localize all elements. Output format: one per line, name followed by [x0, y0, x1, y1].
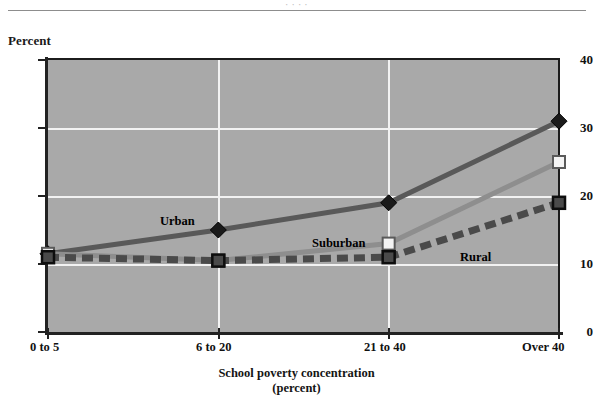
x-axis-title-line2: (percent): [0, 381, 593, 396]
gridline-x-21to40: [388, 60, 390, 332]
x-tick-label-over40: Over 40: [522, 340, 564, 355]
y-tick-label-0: 0: [563, 324, 593, 340]
plot-frame-top: [48, 58, 560, 60]
y-tick-mark-30: [38, 127, 46, 129]
chart-page: · · · · Percent 40 30 20 10 0 0 to 5 6 t…: [0, 0, 593, 404]
x-axis-title: School poverty concentration (percent): [0, 366, 593, 396]
y-tick-mark-20: [38, 195, 46, 197]
x-axis-line: [45, 332, 563, 335]
x-tick-mark-21to40: [388, 328, 390, 339]
y-tick-label-10: 10: [563, 256, 593, 272]
header-rule: [8, 10, 586, 11]
series-label-suburban: Suburban: [312, 236, 366, 251]
cropped-header-text: · · · ·: [0, 0, 593, 9]
y-tick-mark-0: [38, 331, 46, 333]
x-tick-label-6to20: 6 to 20: [196, 340, 231, 355]
gridline-x-6to20: [218, 60, 220, 332]
gridline-y-30: [48, 128, 560, 130]
series-label-rural: Rural: [460, 250, 491, 265]
x-tick-label-21to40: 21 to 40: [364, 340, 406, 355]
y-tick-label-20: 20: [563, 188, 593, 204]
x-tick-label-0to5: 0 to 5: [30, 340, 59, 355]
y-tick-mark-40: [38, 59, 46, 61]
plot-frame-right: [558, 58, 560, 334]
x-tick-mark-0to5: [47, 328, 49, 339]
gridline-y-20: [48, 196, 560, 198]
y-axis-title: Percent: [8, 33, 51, 49]
y-tick-label-30: 30: [563, 120, 593, 136]
x-axis-title-line1: School poverty concentration: [0, 366, 593, 381]
x-tick-mark-6to20: [218, 328, 220, 339]
series-label-urban: Urban: [160, 214, 195, 229]
x-tick-mark-over40: [558, 328, 560, 339]
y-tick-mark-10: [38, 263, 46, 265]
y-tick-label-40: 40: [563, 52, 593, 68]
